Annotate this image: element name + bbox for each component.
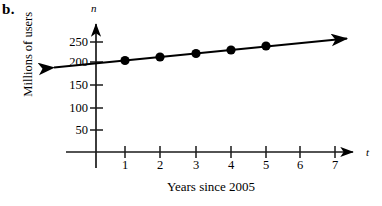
data-point	[191, 49, 200, 58]
data-point	[261, 41, 270, 50]
data-points	[120, 41, 270, 65]
data-point	[155, 52, 164, 61]
figure-container: b. Millions of users Years since 2005 n …	[0, 0, 382, 206]
data-point	[120, 56, 129, 65]
plot-area	[0, 0, 382, 206]
data-point	[226, 45, 235, 54]
